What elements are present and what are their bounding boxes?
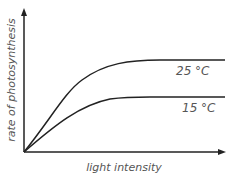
chart: 25 °C 15 °C light intensity rate of phot… (0, 0, 229, 179)
label-25c: 25 °C (176, 64, 210, 78)
label-15c: 15 °C (182, 101, 216, 115)
y-axis-label: rate of photosynthesis (5, 18, 18, 142)
x-axis-label: light intensity (86, 161, 162, 174)
